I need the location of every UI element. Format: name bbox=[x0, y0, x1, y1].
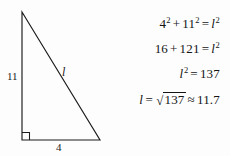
eq4-approx-sign: ≈ bbox=[186, 92, 197, 107]
square-root-expression: √137 bbox=[155, 92, 185, 106]
eq3-result: 137 bbox=[200, 66, 220, 81]
eq2-term-b: 121 bbox=[180, 41, 200, 56]
eq4-equals: = bbox=[144, 92, 156, 107]
geometry-figure-page: 11 4 l 42+112=l2 16+121=l2 l2=137 l=√137… bbox=[0, 0, 230, 156]
equation-line-2: 16+121=l2 bbox=[60, 42, 220, 67]
eq1-term-b: 11 bbox=[182, 16, 195, 31]
equation-line-3: l2=137 bbox=[60, 67, 220, 92]
radical-sign-icon: √ bbox=[156, 94, 163, 107]
eq2-operator-plus: + bbox=[168, 41, 180, 56]
vertical-leg-label: 11 bbox=[7, 71, 18, 82]
eq4-radicand: 137 bbox=[163, 92, 185, 106]
solution-equations: 42+112=l2 16+121=l2 l2=137 l=√137≈11.7 bbox=[60, 17, 220, 117]
eq4-result: 11.7 bbox=[197, 92, 220, 107]
eq2-equals: = bbox=[200, 41, 212, 56]
eq1-equals: = bbox=[200, 16, 212, 31]
eq1-operator-plus: + bbox=[171, 16, 183, 31]
equation-line-1: 42+112=l2 bbox=[60, 17, 220, 42]
equation-line-4: l=√137≈11.7 bbox=[60, 92, 220, 117]
eq1-exp-c: 2 bbox=[216, 15, 220, 25]
eq2-term-a: 16 bbox=[155, 41, 168, 56]
right-angle-marker bbox=[22, 133, 30, 141]
eq2-exp-c: 2 bbox=[216, 40, 220, 50]
horizontal-leg-label: 4 bbox=[56, 142, 62, 153]
eq4-variable-l: l bbox=[139, 92, 143, 107]
eq3-equals: = bbox=[188, 66, 200, 81]
